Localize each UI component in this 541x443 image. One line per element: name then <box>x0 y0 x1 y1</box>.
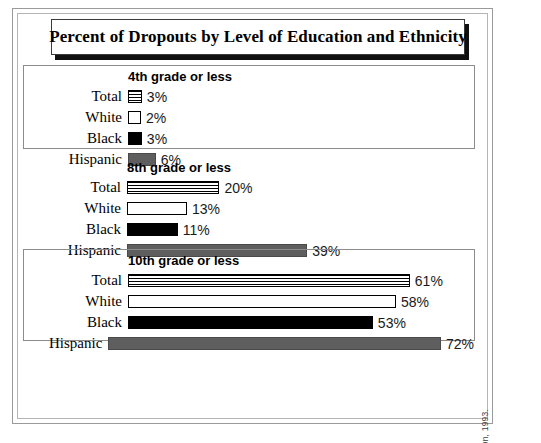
bar-row: Total3% <box>24 86 474 107</box>
figure-frame: Percent of Dropouts by Level of Educatio… <box>12 8 493 424</box>
bar-row: Black53% <box>24 312 474 333</box>
bar-category-label: Black <box>24 315 128 330</box>
panel-heading: 4th grade or less <box>128 69 474 84</box>
bar-category-label: White <box>23 201 127 216</box>
title-border: Percent of Dropouts by Level of Educatio… <box>51 19 465 55</box>
bar-row: Black11% <box>23 219 475 240</box>
bar-black <box>128 132 142 145</box>
bar-category-label: Total <box>23 180 127 195</box>
bar-value-label: 11% <box>183 223 210 237</box>
bar-row: Total61% <box>24 270 474 291</box>
bar-category-label: Black <box>24 131 128 146</box>
bar-white <box>128 295 396 308</box>
bar-white <box>128 111 141 124</box>
bar-category-label: Total <box>24 89 128 104</box>
bar-row: White2% <box>24 107 474 128</box>
bar-value-label: 2% <box>146 111 166 125</box>
bar-striped <box>127 181 219 194</box>
chart-panel: 10th grade or lessTotal61%White58%Black5… <box>23 249 475 341</box>
bar-category-label: Total <box>24 273 128 288</box>
panel-heading: 10th grade or less <box>128 253 474 268</box>
bar-category-label: White <box>24 110 128 125</box>
bar-value-label: 53% <box>378 316 406 330</box>
page-title: Percent of Dropouts by Level of Educatio… <box>49 27 467 47</box>
bar-row: Black3% <box>24 128 474 149</box>
chart-title-box: Percent of Dropouts by Level of Educatio… <box>51 19 465 55</box>
source-note: Source: U.S. Department of Education, 19… <box>480 409 490 443</box>
bar-black <box>127 223 178 236</box>
panel-heading: 8th grade or less <box>127 160 475 175</box>
chart-panel: 8th grade or lessTotal20%White13%Black11… <box>23 157 475 241</box>
bar-white <box>127 202 187 215</box>
bar-black <box>128 316 373 329</box>
bar-value-label: 3% <box>147 90 167 104</box>
bar-category-label: White <box>24 294 128 309</box>
bar-category-label: Black <box>23 222 127 237</box>
bar-row: Total20% <box>23 177 475 198</box>
bar-row: White13% <box>23 198 475 219</box>
bar-value-label: 3% <box>147 132 167 146</box>
bar-value-label: 58% <box>401 295 429 309</box>
bar-row: Hispanic72% <box>24 333 474 354</box>
bar-striped <box>128 274 410 287</box>
bar-value-label: 20% <box>224 181 252 195</box>
bar-value-label: 72% <box>446 337 474 351</box>
chart-panel: 4th grade or lessTotal3%White2%Black3%Hi… <box>23 65 475 149</box>
bar-value-label: 61% <box>415 274 443 288</box>
bar-gray <box>108 337 441 350</box>
bar-row: White58% <box>24 291 474 312</box>
bar-striped <box>128 90 142 103</box>
panel-rows: Total61%White58%Black53%Hispanic72% <box>24 270 474 354</box>
bar-value-label: 13% <box>192 202 220 216</box>
bar-category-label: Hispanic <box>24 336 108 351</box>
